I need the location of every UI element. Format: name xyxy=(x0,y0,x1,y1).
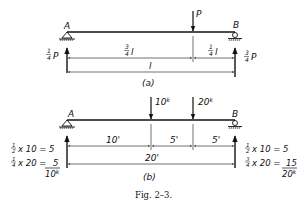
svg-text:20k: 20k xyxy=(282,168,297,179)
svg-text:x 20 =: x 20 = xyxy=(251,158,280,168)
svg-text:4: 4 xyxy=(245,56,249,63)
panel-a: A B P 1 4 P 3 4 P xyxy=(46,9,257,88)
svg-text:4: 4 xyxy=(246,162,250,168)
dimension-label-l: l xyxy=(149,61,152,71)
svg-text:4: 4 xyxy=(125,50,129,57)
svg-text:l: l xyxy=(215,47,218,57)
svg-text:P: P xyxy=(53,51,59,61)
svg-text:l: l xyxy=(131,47,134,57)
svg-text:4: 4 xyxy=(12,162,16,168)
svg-text:3: 3 xyxy=(125,43,129,50)
dimension-label-3-4-l: 3 4 l xyxy=(124,43,134,57)
roller-support-icon xyxy=(228,33,242,42)
svg-text:x 10 = 5: x 10 = 5 xyxy=(251,144,288,154)
load-label-10k: 10k xyxy=(155,96,170,107)
reaction-label-right: 3 4 P xyxy=(244,49,257,63)
svg-text:15: 15 xyxy=(286,158,297,168)
support-label-a: A xyxy=(63,21,70,31)
dimension-label-20ft: 20' xyxy=(145,153,159,163)
svg-text:1: 1 xyxy=(47,47,51,54)
svg-text:x 10 = 5: x 10 = 5 xyxy=(17,144,54,154)
dimension-label-5ft-b: 5' xyxy=(212,135,220,145)
svg-text:2: 2 xyxy=(246,148,250,154)
svg-text:x 20 =: x 20 = xyxy=(17,158,46,168)
roller-support-icon xyxy=(228,121,242,130)
svg-text:10k: 10k xyxy=(45,168,60,179)
support-label-a: A xyxy=(67,109,74,119)
load-label-p: P xyxy=(196,9,202,19)
svg-text:5: 5 xyxy=(53,158,58,168)
reaction-calc-left: 1 2 x 10 = 5 1 4 x 20 = 5 10k xyxy=(11,142,60,179)
panel-label-b: (b) xyxy=(143,172,156,182)
beam-diagram: A B P 1 4 P 3 4 P xyxy=(0,0,306,205)
svg-text:3: 3 xyxy=(245,49,249,56)
reaction-calc-right: 1 2 x 10 = 5 3 4 x 20 = 15 20k xyxy=(245,142,297,179)
svg-text:4: 4 xyxy=(47,54,51,61)
dimension-label-5ft-a: 5' xyxy=(170,135,178,145)
svg-text:4: 4 xyxy=(209,50,213,57)
support-label-b: B xyxy=(233,20,239,30)
svg-text:1: 1 xyxy=(209,43,213,50)
load-label-20k: 20k xyxy=(198,96,213,107)
reaction-label-left: 1 4 P xyxy=(46,47,59,61)
panel-label-a: (a) xyxy=(142,78,155,88)
svg-text:2: 2 xyxy=(12,148,16,154)
panel-b: A B 10k 20k 10' 5' 5' 20' 1 2 xyxy=(11,96,297,182)
support-label-b: B xyxy=(232,109,238,119)
svg-text:P: P xyxy=(251,52,257,62)
dimension-label-10ft: 10' xyxy=(106,135,120,145)
dimension-label-1-4-l: 1 4 l xyxy=(208,43,218,57)
figure-caption: Fig. 2–3. xyxy=(135,190,172,200)
pin-support-icon xyxy=(59,32,75,41)
pin-support-icon xyxy=(59,120,75,129)
